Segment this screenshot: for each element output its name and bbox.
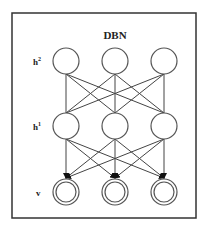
layer-v: v bbox=[36, 179, 177, 205]
layer-v-label: v bbox=[36, 188, 41, 198]
v-node-2 bbox=[102, 179, 128, 205]
v-node-1 bbox=[53, 179, 79, 205]
h2-node-1 bbox=[53, 48, 79, 74]
h1-node-1 bbox=[53, 113, 79, 139]
h1-node-2 bbox=[102, 113, 128, 139]
h2-node-2 bbox=[102, 48, 128, 74]
v-node-3 bbox=[151, 179, 177, 205]
diagram-title: DBN bbox=[103, 29, 126, 41]
h2-node-3 bbox=[151, 48, 177, 74]
dbn-diagram: DBN h2 h1 v bbox=[0, 0, 208, 229]
h1-node-3 bbox=[151, 113, 177, 139]
